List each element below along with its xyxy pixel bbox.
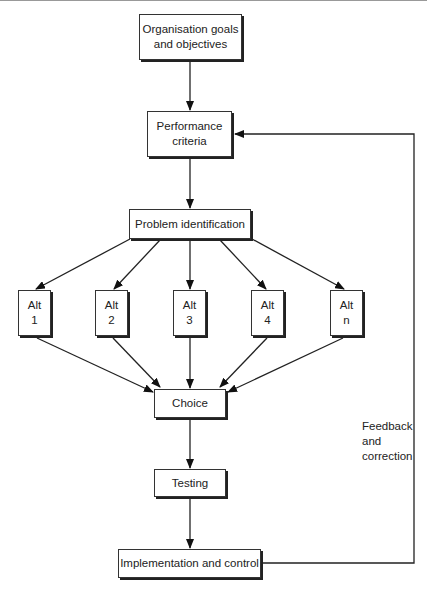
node-implementation-control: Implementation and control (118, 549, 261, 578)
node-performance-criteria: Performance criteria (147, 111, 232, 157)
feedback-correction-label: Feedback and correction (362, 419, 413, 464)
node-choice: Choice (154, 389, 226, 418)
node-organisation-goals: Organisation goals and objectives (139, 14, 242, 60)
node-alt-4: Alt 4 (251, 290, 284, 336)
node-problem-identification: Problem identification (129, 209, 251, 239)
node-alt-2: Alt 2 (95, 290, 128, 336)
node-testing: Testing (154, 469, 226, 497)
node-alt-n: Alt n (330, 290, 363, 336)
node-alt-3: Alt 3 (173, 290, 206, 336)
node-alt-1: Alt 1 (18, 290, 51, 336)
